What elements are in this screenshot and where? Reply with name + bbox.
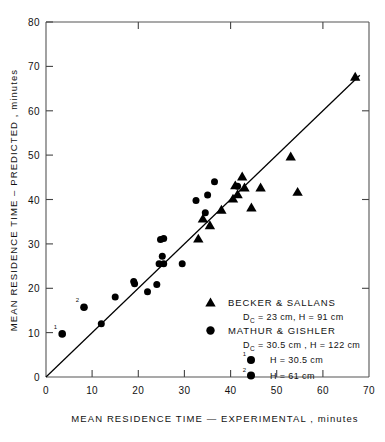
x-tick-label-30: 30 — [178, 385, 190, 396]
x-tick-label-50: 50 — [271, 385, 283, 396]
legend-detail-becker-sallans: DC = 23 cm, H = 91 cm — [243, 312, 344, 324]
y-axis-title: MEAN RESIDENCE TIME – PREDICTED , minute… — [8, 69, 19, 331]
y-tick-label-20: 20 — [28, 283, 40, 294]
legend-detail-rest: = 23 cm, H = 91 cm — [255, 312, 344, 322]
data-point-circle — [160, 260, 167, 267]
y-tick-label-80: 80 — [28, 17, 40, 28]
y-tick-label-0: 0 — [34, 372, 40, 383]
y-tick-label-10: 10 — [28, 328, 40, 339]
legend-label-mathur-gishler: MATHUR & GISHLER — [228, 325, 336, 336]
data-point-circle — [204, 192, 211, 199]
legend-label-becker-sallans: BECKER & SALLANS — [228, 297, 336, 308]
scatter-plot-svg: 80 70 60 50 40 30 20 10 0 0 10 20 30 40 … — [0, 0, 385, 442]
chart-figure: 80 70 60 50 40 30 20 10 0 0 10 20 30 40 … — [0, 0, 385, 442]
x-axis-title: MEAN RESIDENCE TIME — EXPERIMENTAL , min… — [71, 413, 358, 424]
data-point-circle-labeled-2 — [80, 303, 88, 311]
x-tick-label-60: 60 — [317, 385, 329, 396]
y-tick-label-70: 70 — [28, 61, 40, 72]
data-point-circle — [211, 178, 218, 185]
legend-detail-rest: = 30.5 cm , H = 122 cm — [255, 340, 360, 350]
data-point-circle — [131, 280, 138, 287]
data-point-circle — [160, 235, 167, 242]
data-point-circle — [112, 294, 119, 301]
y-tick-label-40: 40 — [28, 195, 40, 206]
plot-background — [0, 0, 385, 442]
legend-detail-mathur-gishler: DC = 30.5 cm , H = 122 cm — [243, 340, 360, 352]
y-tick-label-60: 60 — [28, 106, 40, 117]
legend-label-h-61: H = 61 cm — [270, 371, 315, 381]
legend-label-h-30-5: H = 30.5 cm — [270, 355, 323, 365]
data-point-circle — [144, 288, 151, 295]
y-tick-label-50: 50 — [28, 150, 40, 161]
x-tick-label-70: 70 — [363, 385, 375, 396]
data-point-circle — [159, 253, 166, 260]
data-point-circle — [179, 260, 186, 267]
data-point-circle — [153, 281, 160, 288]
x-tick-label-20: 20 — [132, 385, 144, 396]
legend-marker-circle — [206, 326, 214, 334]
y-tick-labels: 80 70 60 50 40 30 20 10 0 — [28, 17, 40, 383]
data-point-circle — [98, 320, 105, 327]
legend-marker-circle-2 — [247, 372, 255, 380]
x-tick-label-10: 10 — [86, 385, 98, 396]
data-point-circle-labeled-1 — [58, 330, 66, 338]
legend-marker-circle-1 — [247, 356, 255, 364]
data-point-circle — [193, 197, 200, 204]
x-tick-label-40: 40 — [225, 385, 237, 396]
x-tick-label-0: 0 — [43, 385, 49, 396]
y-tick-label-30: 30 — [28, 239, 40, 250]
